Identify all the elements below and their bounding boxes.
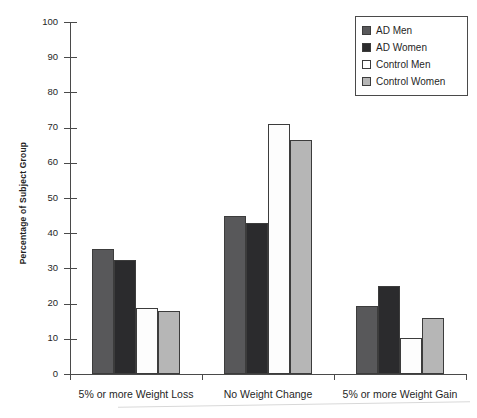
y-axis-tick-label: 40: [47, 227, 58, 238]
bar: [136, 308, 158, 374]
y-axis-tick: 30: [64, 268, 77, 269]
y-axis-tick: 20: [64, 304, 77, 305]
y-axis-tick: 10: [64, 339, 77, 340]
y-axis-tick-label: 60: [47, 156, 58, 167]
y-axis-tick: 100: [64, 22, 77, 23]
x-axis-tick: [70, 374, 71, 380]
y-axis-title: Percentage of Subject Group: [18, 108, 28, 298]
bar: [224, 216, 246, 374]
y-axis-tick-label: 70: [47, 121, 58, 132]
x-axis-category-label: 5% or more Weight Loss: [79, 388, 194, 400]
x-axis-tick: [334, 374, 335, 380]
y-axis-tick: 60: [64, 163, 77, 164]
legend-swatch-icon: [362, 60, 371, 69]
bar: [422, 318, 444, 374]
bar: [378, 286, 400, 374]
bar: [92, 249, 114, 374]
x-axis-category-label: No Weight Change: [224, 388, 313, 400]
y-axis-tick-label: 20: [47, 297, 58, 308]
legend-item-control-men: Control Men: [362, 56, 463, 73]
y-axis-tick-label: 90: [47, 51, 58, 62]
y-axis-tick-label: 50: [47, 192, 58, 203]
y-axis-tick: 90: [64, 57, 77, 58]
legend-label: AD Men: [376, 25, 412, 36]
bar: [114, 260, 136, 374]
x-axis-line: [70, 374, 466, 375]
y-axis-tick: 80: [64, 92, 77, 93]
bar: [246, 223, 268, 374]
legend-swatch-icon: [362, 26, 371, 35]
y-axis-tick-label: 80: [47, 86, 58, 97]
y-axis-tick: 40: [64, 233, 77, 234]
x-axis-category-label: 5% or more Weight Gain: [343, 388, 458, 400]
bar: [268, 124, 290, 374]
bar-chart: Percentage of Subject Group 010203040506…: [0, 0, 477, 418]
x-axis-tick: [466, 374, 467, 380]
legend-swatch-icon: [362, 77, 371, 86]
legend: AD Men AD Women Control Men Control Wome…: [355, 16, 468, 96]
legend-item-control-women: Control Women: [362, 73, 463, 90]
y-axis-tick-label: 100: [42, 16, 58, 27]
x-axis-tick: [202, 374, 203, 380]
y-axis-tick-label: 30: [47, 262, 58, 273]
bar: [356, 306, 378, 374]
legend-label: Control Women: [376, 76, 445, 87]
y-axis-tick-label: 10: [47, 332, 58, 343]
y-axis-tick: 70: [64, 128, 77, 129]
y-axis-tick-label: 0: [53, 368, 58, 379]
legend-item-ad-women: AD Women: [362, 39, 463, 56]
legend-item-ad-men: AD Men: [362, 22, 463, 39]
legend-swatch-icon: [362, 43, 371, 52]
bar: [290, 140, 312, 374]
y-axis-tick: 50: [64, 198, 77, 199]
bar: [158, 311, 180, 374]
scan-artifact: [118, 401, 470, 408]
legend-label: Control Men: [376, 59, 430, 70]
legend-label: AD Women: [376, 42, 427, 53]
bar: [400, 338, 422, 374]
